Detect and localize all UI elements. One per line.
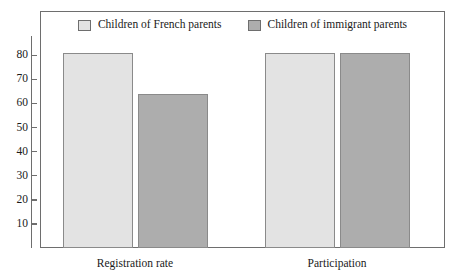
bar-chart: Children of French parents Children of i… xyxy=(0,0,461,279)
x-axis-label-2: Participation xyxy=(308,258,367,270)
bar-french-group-2[interactable] xyxy=(265,53,335,248)
bars-layer xyxy=(0,0,461,279)
bar-immigrant-group-1[interactable] xyxy=(138,94,208,248)
bar-french-group-1[interactable] xyxy=(63,53,133,248)
x-axis-label-1: Registration rate xyxy=(97,258,173,270)
bar-immigrant-group-2[interactable] xyxy=(340,53,410,248)
